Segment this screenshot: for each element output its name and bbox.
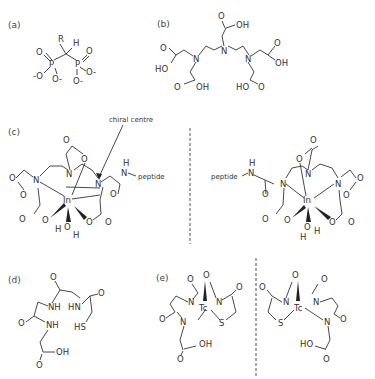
panel-label-c: (c) bbox=[8, 127, 20, 137]
svg-text:O: O bbox=[187, 274, 194, 284]
svg-text:HN: HN bbox=[68, 302, 81, 312]
svg-text:N: N bbox=[121, 168, 127, 178]
svg-text:O: O bbox=[343, 190, 350, 200]
svg-text:OH: OH bbox=[275, 58, 288, 68]
svg-text:H: H bbox=[300, 232, 306, 242]
svg-text:N: N bbox=[283, 297, 289, 307]
svg-text:N: N bbox=[221, 46, 227, 56]
panel-e-mirror: O O N Tc N O S O N HO O bbox=[259, 270, 347, 364]
panel-label-a: (a) bbox=[8, 20, 21, 30]
svg-text:O: O bbox=[64, 222, 71, 232]
svg-text:O: O bbox=[174, 82, 181, 92]
panel-b: (b) N N N O OH O HO O OH O OH HO O bbox=[155, 11, 288, 92]
svg-text:O: O bbox=[262, 214, 269, 224]
svg-text:O: O bbox=[50, 272, 57, 282]
svg-text:N: N bbox=[324, 317, 330, 327]
svg-text:O: O bbox=[42, 215, 49, 225]
svg-text:N: N bbox=[305, 169, 311, 179]
svg-text:O: O bbox=[329, 217, 336, 227]
svg-text:O: O bbox=[262, 189, 269, 199]
metal-in-right: In bbox=[303, 195, 311, 205]
svg-text:O: O bbox=[81, 154, 88, 164]
svg-text:H: H bbox=[249, 158, 255, 168]
svg-text:NH: NH bbox=[46, 320, 59, 330]
svg-text:HO: HO bbox=[300, 339, 313, 349]
svg-text:R: R bbox=[58, 34, 64, 44]
svg-text:O: O bbox=[304, 222, 311, 232]
svg-text:O: O bbox=[160, 43, 167, 53]
svg-text:O: O bbox=[203, 270, 210, 280]
figure-canvas: (a) R H P P O O -O O- O- O- (b) N N N O … bbox=[0, 0, 375, 379]
panel-label-e: (e) bbox=[156, 273, 169, 283]
svg-text:H: H bbox=[73, 38, 79, 48]
svg-text:H: H bbox=[55, 224, 61, 234]
svg-text:O: O bbox=[292, 270, 299, 280]
peptide-label-right: peptide bbox=[211, 173, 238, 181]
svg-text:O: O bbox=[177, 354, 184, 364]
metal-tc-right: Tc bbox=[293, 303, 303, 313]
svg-text:O: O bbox=[159, 314, 166, 324]
svg-text:OH: OH bbox=[196, 82, 209, 92]
svg-text:O-: O- bbox=[52, 74, 62, 84]
peptide-label-left: peptide bbox=[138, 173, 165, 181]
panel-label-d: (d) bbox=[8, 275, 21, 285]
panel-c: (c) chiral centre N N N In O O O O O O O… bbox=[8, 116, 165, 240]
svg-text:O: O bbox=[348, 217, 355, 227]
svg-text:O: O bbox=[236, 282, 243, 292]
svg-text:-O: -O bbox=[33, 71, 43, 81]
svg-text:O: O bbox=[296, 154, 303, 164]
svg-text:HO: HO bbox=[236, 82, 249, 92]
panel-e: (e) O O N Tc N O S O N OH O bbox=[156, 270, 243, 364]
svg-text:O: O bbox=[36, 47, 43, 57]
svg-text:N: N bbox=[313, 297, 319, 307]
panel-a: (a) R H P P O O -O O- O- O- bbox=[8, 20, 96, 86]
svg-text:N: N bbox=[280, 179, 286, 189]
svg-text:P: P bbox=[75, 59, 80, 69]
panel-c-mirror: peptide N H O N N N In O O O O O O O H H… bbox=[211, 135, 364, 242]
svg-text:H: H bbox=[314, 226, 320, 236]
svg-text:N: N bbox=[216, 297, 222, 307]
svg-text:NH: NH bbox=[48, 302, 61, 312]
svg-text:O-: O- bbox=[86, 67, 96, 77]
svg-text:O: O bbox=[310, 135, 317, 145]
svg-text:O: O bbox=[340, 314, 347, 324]
svg-text:O: O bbox=[110, 189, 117, 199]
svg-text:O: O bbox=[9, 173, 16, 183]
svg-text:O: O bbox=[258, 82, 265, 92]
svg-text:O: O bbox=[86, 217, 93, 227]
svg-text:O: O bbox=[259, 282, 266, 292]
chiral-centre-annotation: chiral centre bbox=[109, 116, 153, 124]
svg-text:S: S bbox=[278, 318, 283, 328]
svg-text:OH: OH bbox=[56, 347, 69, 357]
svg-text:OH: OH bbox=[199, 339, 212, 349]
svg-text:O: O bbox=[63, 135, 70, 145]
svg-text:O: O bbox=[86, 46, 93, 56]
svg-text:O: O bbox=[105, 217, 112, 227]
svg-text:O: O bbox=[321, 274, 328, 284]
svg-text:H: H bbox=[73, 230, 79, 240]
metal-tc-left: Tc bbox=[198, 303, 208, 313]
svg-text:O: O bbox=[19, 214, 26, 224]
svg-text:O: O bbox=[18, 318, 25, 328]
panel-d: (d) O NH HN O HS O NH OH O bbox=[8, 272, 105, 370]
svg-text:H: H bbox=[123, 158, 129, 168]
svg-text:N: N bbox=[335, 179, 341, 189]
svg-text:O-: O- bbox=[73, 76, 83, 86]
svg-text:HS: HS bbox=[74, 322, 86, 332]
svg-text:N: N bbox=[248, 168, 254, 178]
panel-label-b: (b) bbox=[157, 19, 170, 29]
svg-text:O: O bbox=[98, 288, 105, 298]
svg-text:OH: OH bbox=[236, 20, 249, 30]
svg-text:O: O bbox=[323, 354, 330, 364]
svg-text:O: O bbox=[20, 190, 27, 200]
svg-text:N: N bbox=[66, 169, 72, 179]
svg-text:O: O bbox=[284, 215, 291, 225]
svg-text:HO: HO bbox=[155, 64, 168, 74]
svg-text:O: O bbox=[218, 11, 225, 21]
svg-text:O: O bbox=[36, 360, 43, 370]
svg-text:N: N bbox=[180, 317, 186, 327]
svg-text:N: N bbox=[33, 175, 39, 185]
svg-text:O: O bbox=[357, 173, 364, 183]
